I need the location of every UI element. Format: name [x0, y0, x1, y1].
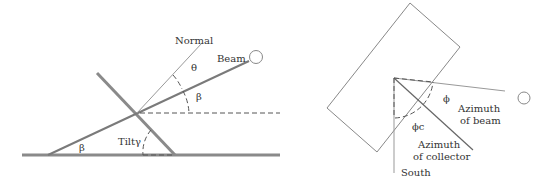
azimuth-beam-label-line1: Azimuth — [457, 103, 501, 114]
azimuth-arc — [395, 82, 433, 118]
azimuth-beam-label-line2: of beam — [460, 115, 501, 126]
beam-ray — [48, 61, 249, 155]
tilt-diagram: Normal Beam θ β β Tiltγ — [22, 35, 280, 155]
south-label: South — [401, 167, 431, 178]
beta-label-lower: β — [79, 142, 85, 153]
theta-arc — [173, 75, 182, 89]
normal-line — [137, 43, 202, 113]
beam-label: Beam — [217, 53, 246, 64]
azimuth-collector-label-line2: of collector — [413, 151, 470, 162]
tilt-arc — [143, 130, 151, 155]
phi-label: ϕ — [443, 93, 450, 104]
azimuth-collector-label-line1: Azimuth — [417, 139, 461, 150]
solar-geometry-figure: Normal Beam θ β β Tiltγ ϕ Azimuth of bea… — [0, 0, 554, 189]
phi-c-label: ϕc — [412, 121, 425, 132]
tilt-label: Tiltγ — [118, 136, 141, 147]
theta-label: θ — [191, 62, 197, 73]
beta-label-upper: β — [196, 91, 202, 102]
beta-arc-upper — [183, 91, 189, 113]
sun-icon — [518, 92, 530, 104]
normal-label: Normal — [175, 35, 213, 46]
sun-icon — [250, 51, 263, 64]
azimuth-diagram: ϕ Azimuth of beam ϕc Azimuth of collecto… — [327, 3, 530, 178]
